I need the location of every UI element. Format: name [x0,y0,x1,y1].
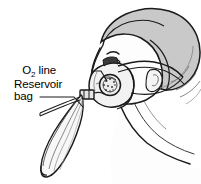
label-o2-line-main: O [22,64,31,76]
label-reservoir-bag-line2: bag [14,90,33,102]
label-reservoir-bag-line1: Reservoir [14,78,63,90]
one-way-valve [100,75,121,96]
oxygen-mask-illustration: O2 line Reservoir bag [0,0,201,184]
label-o2-line-tail: line [35,64,56,76]
illustration-canvas: O2 line Reservoir bag [0,0,201,184]
